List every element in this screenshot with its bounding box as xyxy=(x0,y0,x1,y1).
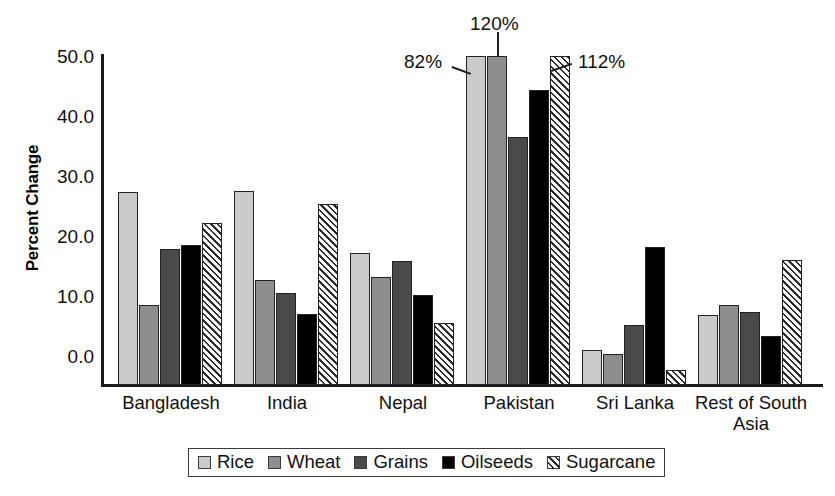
bar-nepal-rice xyxy=(350,253,370,385)
bar-pakistan-grains xyxy=(508,137,528,385)
bar-india-rice xyxy=(234,191,254,385)
legend-label-grains: Grains xyxy=(373,453,428,472)
legend-swatch-rice-icon xyxy=(198,456,211,469)
bar-group-india xyxy=(234,191,338,385)
bar-india-wheat xyxy=(255,280,275,385)
bar-sri-lanka-wheat xyxy=(603,354,623,385)
bar-nepal-grains xyxy=(392,261,412,385)
bar-nepal-wheat xyxy=(371,277,391,385)
bar-rest-of-south-asia-rice xyxy=(698,315,718,385)
bar-sri-lanka-sugarcane xyxy=(666,370,686,385)
leader-line-120 xyxy=(497,32,499,57)
bar-sri-lanka-grains xyxy=(624,325,644,385)
bar-bangladesh-sugarcane xyxy=(202,223,222,385)
bar-nepal-oilseeds xyxy=(413,295,433,385)
legend-label-oilseeds: Oilseeds xyxy=(461,453,533,472)
bar-rest-of-south-asia-grains xyxy=(740,312,760,385)
bar-group-pakistan xyxy=(466,56,570,385)
legend-label-wheat: Wheat xyxy=(287,453,340,472)
bar-rest-of-south-asia-sugarcane xyxy=(782,260,802,385)
y-tick-0: 0.0 xyxy=(24,347,94,366)
bar-nepal-sugarcane xyxy=(434,323,454,385)
bar-group-sri-lanka xyxy=(582,247,686,385)
x-label-rest-of-south-asia: Rest of SouthAsia xyxy=(651,392,835,434)
bar-sri-lanka-oilseeds xyxy=(645,247,665,385)
legend-swatch-sugarcane-icon xyxy=(547,456,560,469)
bar-pakistan-oilseeds xyxy=(529,90,549,385)
y-tick-30: 30.0 xyxy=(24,167,94,186)
bar-group-bangladesh xyxy=(118,192,222,385)
bar-rest-of-south-asia-wheat xyxy=(719,305,739,385)
bar-bangladesh-rice xyxy=(118,192,138,385)
y-tick-20: 20.0 xyxy=(24,227,94,246)
bar-bangladesh-oilseeds xyxy=(181,245,201,385)
legend-item-sugarcane[interactable]: Sugarcane xyxy=(547,453,655,472)
bar-bangladesh-grains xyxy=(160,249,180,385)
bar-pakistan-rice xyxy=(466,56,486,385)
y-axis-tick-labels: 50.0 40.0 30.0 20.0 10.0 0.0 xyxy=(16,0,94,496)
annotation-wheat-pakistan: 120% xyxy=(470,14,519,33)
bar-rest-of-south-asia-oilseeds xyxy=(761,336,781,385)
bar-pakistan-wheat xyxy=(487,56,507,385)
y-tick-10: 10.0 xyxy=(24,287,94,306)
bar-india-sugarcane xyxy=(318,204,338,385)
annotation-rice-pakistan: 82% xyxy=(404,52,442,71)
legend-label-rice: Rice xyxy=(217,453,254,472)
legend-label-sugarcane: Sugarcane xyxy=(566,453,655,472)
bar-group-rest-of-south-asia xyxy=(698,260,802,385)
y-tick-50: 50.0 xyxy=(24,47,94,66)
legend: Rice Wheat Grains Oilseeds Sugarcane xyxy=(188,448,665,477)
legend-swatch-wheat-icon xyxy=(268,456,281,469)
bar-group-nepal xyxy=(350,253,454,385)
legend-item-oilseeds[interactable]: Oilseeds xyxy=(442,453,533,472)
bar-sri-lanka-rice xyxy=(582,350,602,385)
legend-swatch-oilseeds-icon xyxy=(442,456,455,469)
y-tick-40: 40.0 xyxy=(24,107,94,126)
plot-area xyxy=(101,56,823,385)
legend-item-grains[interactable]: Grains xyxy=(354,453,428,472)
legend-item-wheat[interactable]: Wheat xyxy=(268,453,340,472)
bar-pakistan-sugarcane xyxy=(550,56,570,385)
bar-india-grains xyxy=(276,293,296,385)
bar-india-oilseeds xyxy=(297,314,317,385)
annotation-sugarcane-pakistan: 112% xyxy=(578,52,625,71)
legend-swatch-grains-icon xyxy=(354,456,367,469)
bar-bangladesh-wheat xyxy=(139,305,159,385)
legend-item-rice[interactable]: Rice xyxy=(198,453,254,472)
bar-chart: Percent Change 50.0 40.0 30.0 20.0 10.0 … xyxy=(0,0,835,496)
